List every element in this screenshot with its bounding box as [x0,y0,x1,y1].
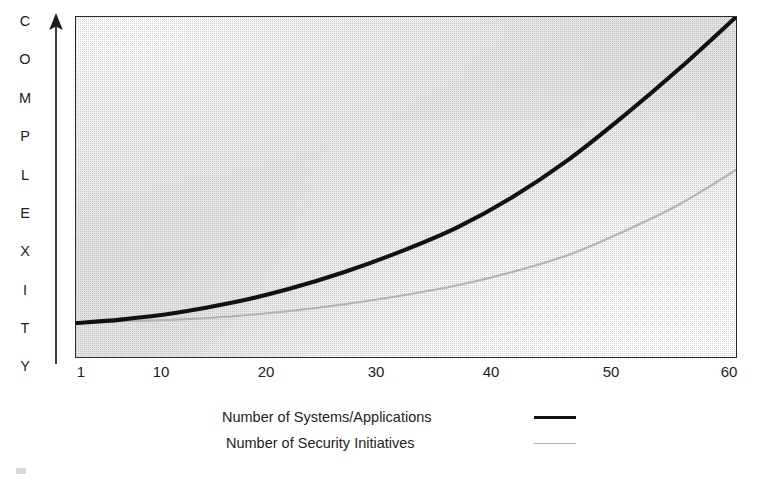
x-tick-label: 20 [258,362,275,382]
x-axis-tick-labels: 1 10 20 30 40 50 60 [0,362,761,386]
y-axis-letter: P [20,129,30,144]
x-tick-label: 50 [603,362,620,382]
x-tick-label: 40 [483,362,500,382]
legend-item-systems-applications: Number of Systems/Applications [222,404,602,430]
plot-area [75,16,737,358]
series-line-security-initiatives [76,170,736,323]
legend-item-security-initiatives: Number of Security Initiatives [222,430,602,456]
y-axis-letter: O [19,52,30,67]
y-axis-letter: C [20,14,30,29]
page-corner-mark [16,468,26,474]
legend-swatch-thin-line [534,438,576,448]
chart-curves [76,17,736,357]
up-arrow-icon [44,12,68,364]
legend-label: Number of Security Initiatives [226,435,415,451]
x-tick-label: 1 [77,362,85,382]
complexity-chart-figure: C O M P L E X I T Y 1 10 20 30 40 50 60 [0,0,761,487]
x-tick-label: 60 [721,362,738,382]
y-axis-letter: L [21,168,29,183]
y-axis-letter: X [20,244,30,259]
x-tick-label: 10 [153,362,170,382]
legend-swatch-thick-line [534,412,576,422]
x-tick-label: 30 [368,362,385,382]
y-axis-title: C O M P L E X I T Y [12,14,38,374]
y-axis-letter: I [23,283,27,298]
y-axis-letter: T [21,321,30,336]
chart-legend: Number of Systems/Applications Number of… [222,404,602,456]
legend-label: Number of Systems/Applications [222,409,432,425]
y-axis-letter: M [19,91,31,106]
y-axis-letter: E [20,206,30,221]
series-line-systems-applications [76,17,736,323]
